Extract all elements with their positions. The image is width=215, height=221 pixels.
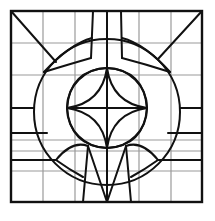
pattern-canvas xyxy=(0,0,215,221)
pattern-ink xyxy=(11,11,202,202)
